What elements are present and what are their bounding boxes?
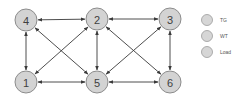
node-label: 5	[94, 77, 100, 89]
legend-item-tg: TG	[202, 15, 228, 26]
edge-4-2	[38, 19, 85, 20]
legend-label: TG	[220, 17, 227, 23]
node-6: 6	[159, 71, 181, 93]
legend-item-wt: WT	[202, 31, 228, 42]
legend-swatch-icon	[202, 15, 213, 26]
nodes-group: 423156	[15, 8, 181, 93]
node-label: 1	[23, 77, 29, 89]
legend-swatch-icon	[202, 47, 213, 58]
legend-item-load: Load	[202, 47, 232, 58]
graph-canvas: 423156 TGWTLoad	[0, 0, 246, 102]
node-label: 4	[23, 15, 29, 27]
legend-label: WT	[220, 33, 228, 39]
legend-swatch-icon	[202, 31, 213, 42]
node-label: 2	[94, 14, 100, 26]
legend: TGWTLoad	[202, 15, 232, 58]
node-label: 3	[167, 14, 173, 26]
node-label: 6	[167, 77, 173, 89]
node-5: 5	[86, 71, 108, 93]
node-2: 2	[86, 8, 108, 30]
node-3: 3	[159, 8, 181, 30]
node-4: 4	[15, 9, 37, 31]
node-1: 1	[15, 71, 37, 93]
network-diagram: 423156 TGWTLoad	[0, 0, 246, 102]
legend-label: Load	[220, 49, 231, 55]
